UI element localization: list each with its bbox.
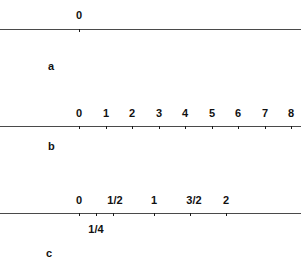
tick-c-0 [79,213,80,216]
part-label-c: c [46,248,52,259]
tick-label-b-1: 1 [103,108,109,119]
tick-c-1 [154,213,155,216]
axis-line-a [0,29,301,30]
axis-line-b [0,126,301,127]
tick-label-c-three-halves: 3/2 [186,195,201,206]
tick-b-0 [79,126,80,129]
part-label-a: a [48,61,54,72]
tick-c-half [113,213,114,216]
tick-label-b-6: 6 [235,108,241,119]
tick-b-6 [238,126,239,129]
axis-line-c [0,213,301,214]
tick-b-3 [159,126,160,129]
tick-b-4 [185,126,186,129]
tick-label-c-half: 1/2 [107,195,122,206]
tick-label-c-1: 1 [151,195,157,206]
tick-label-a-0: 0 [76,10,82,21]
tick-c-quarter [96,213,97,216]
tick-label-b-8: 8 [288,108,294,119]
tick-label-b-7: 7 [262,108,268,119]
tick-label-b-2: 2 [129,108,135,119]
tick-a-0 [79,29,80,32]
tick-label-c-2: 2 [223,195,229,206]
tick-b-5 [212,126,213,129]
tick-b-8 [291,126,292,129]
tick-label-c-0: 0 [76,195,82,206]
part-label-b: b [48,141,55,152]
tick-label-b-4: 4 [182,108,188,119]
tick-label-c-quarter-below: 1/4 [88,224,103,235]
tick-b-2 [132,126,133,129]
tick-label-b-3: 3 [156,108,162,119]
tick-label-b-0: 0 [76,108,82,119]
tick-b-7 [265,126,266,129]
tick-c-three-halves [190,213,191,216]
number-line-figure: 0 a 0 1 2 3 4 5 6 7 8 b 0 1/2 1 3/2 2 1/… [0,0,301,266]
tick-c-2 [226,213,227,216]
tick-label-b-5: 5 [209,108,215,119]
tick-b-1 [106,126,107,129]
